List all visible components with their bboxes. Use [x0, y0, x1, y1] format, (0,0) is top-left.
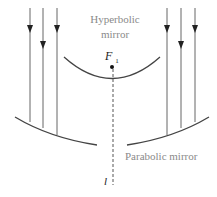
- arrow-icon: [40, 41, 46, 49]
- axis-label: l: [104, 175, 107, 187]
- focus-point: [110, 65, 114, 69]
- parabolic-mirror-right: [127, 117, 209, 145]
- hyperbolic-label-line1: Hyperbolic: [90, 13, 140, 25]
- arrow-icon: [178, 41, 184, 49]
- parabolic-label: Parabolic mirror: [125, 150, 198, 162]
- telescope-mirror-diagram: Hyperbolic mirror F 1 Parabolic mirror l: [0, 0, 217, 197]
- arrow-icon: [164, 25, 170, 33]
- incoming-rays-left: [27, 8, 60, 135]
- parabolic-mirror-left: [15, 117, 97, 145]
- incoming-rays-right: [164, 8, 198, 135]
- focus-label: F 1: [104, 49, 119, 65]
- focus-label-sub: 1: [115, 57, 119, 65]
- arrow-icon: [27, 25, 33, 33]
- hyperbolic-label-line2: mirror: [101, 28, 129, 40]
- focus-label-main: F: [104, 49, 113, 63]
- arrow-icon: [192, 25, 198, 33]
- arrow-icon: [54, 25, 60, 33]
